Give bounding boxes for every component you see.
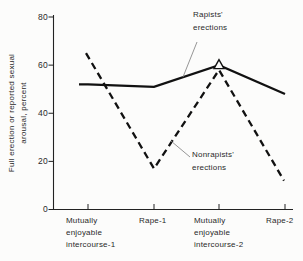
triangle-marker — [214, 60, 224, 69]
rapists-erections-line — [79, 65, 285, 94]
x-label-rape-2: Rape-2 — [266, 215, 293, 227]
x-label-rape-1: Rape-1 — [139, 215, 166, 227]
nonrapists-leader-line — [171, 141, 190, 157]
y-tick-label-80: 80 — [30, 12, 48, 22]
axis-ticks — [49, 17, 286, 210]
y-tick-label-40: 40 — [30, 108, 48, 118]
nonrapists-series-label: Nonrapists' erections — [192, 148, 234, 174]
x-label-intercourse-1: Mutually enjoyable intercourse-1 — [66, 215, 115, 251]
rapists-leader-line — [183, 42, 197, 77]
x-label-intercourse-2: Mutually enjoyable intercourse-2 — [194, 215, 243, 251]
y-tick-label-20: 20 — [30, 156, 48, 166]
chart-figure: Full erection or reported sexual arousal… — [0, 0, 303, 261]
y-tick-label-0: 0 — [30, 204, 48, 214]
y-axis-title: Full erection or reported sexual arousal… — [6, 28, 30, 198]
rapists-series-label: Rapists' erections — [193, 8, 227, 34]
y-tick-label-60: 60 — [30, 60, 48, 70]
